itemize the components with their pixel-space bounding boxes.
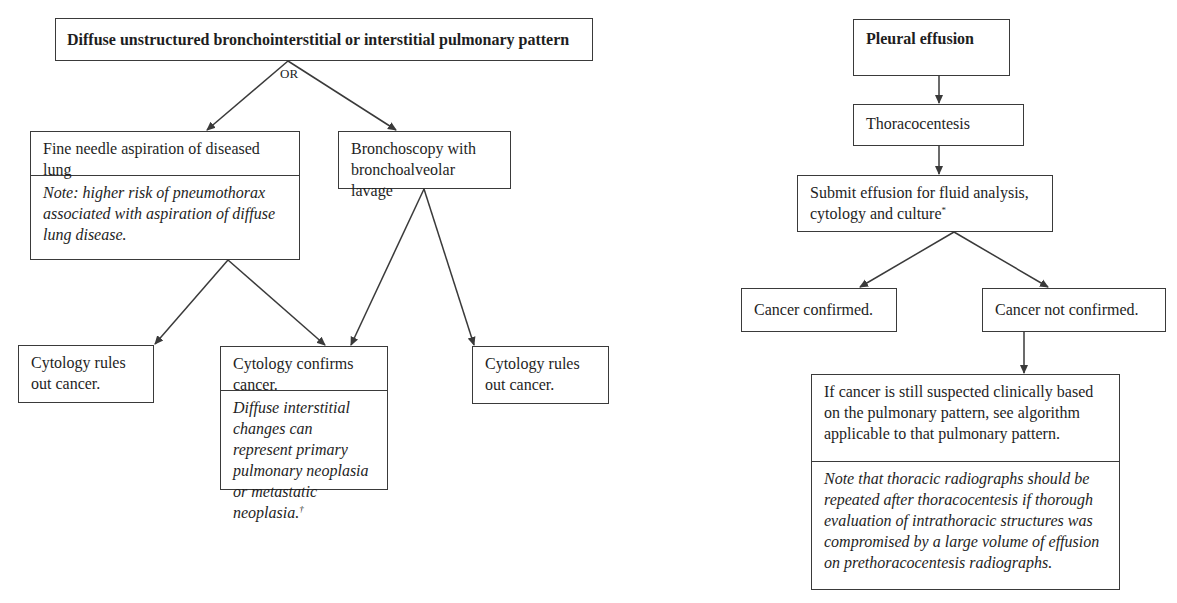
cytology-confirms-note-wrap: Diffuse interstitial changes can represe… (221, 390, 387, 529)
cytology-confirms-box: Cytology confirms cancer. Diffuse inters… (220, 346, 388, 490)
dagger-footnote-mark: † (299, 504, 304, 514)
submit-effusion-label: Submit effusion for fluid analysis, cyto… (810, 184, 1029, 222)
cytology-rules-out-left-box: Cytology rules out cancer. (18, 345, 154, 403)
cancer-not-confirmed-label: Cancer not confirmed. (983, 289, 1165, 326)
pleural-effusion-label: Pleural effusion (854, 20, 1009, 55)
root-box-diffuse-pattern: Diffuse unstructured bronchointerstitial… (55, 18, 593, 61)
pleural-effusion-box: Pleural effusion (853, 19, 1010, 76)
followup-note: Note that thoracic radiographs should be… (812, 461, 1119, 579)
thoracocentesis-box: Thoracocentesis (853, 104, 1024, 146)
cytology-confirms-title: Cytology confirms cancer. (221, 347, 387, 390)
fna-title: Fine needle aspiration of diseased lung (31, 132, 299, 175)
cytology-rules-out-right-box: Cytology rules out cancer. (472, 346, 609, 404)
cytology-rules-out-right-label: Cytology rules out cancer. (473, 347, 608, 401)
followup-box: If cancer is still suspected clinically … (811, 374, 1120, 590)
followup-title: If cancer is still suspected clinically … (812, 375, 1119, 461)
bronchoscopy-box: Bronchoscopy with bronchoalveolar lavage (338, 131, 511, 189)
submit-effusion-box: Submit effusion for fluid analysis, cyto… (797, 175, 1053, 232)
bronchoscopy-title: Bronchoscopy with bronchoalveolar lavage (339, 132, 510, 207)
or-branch-label: OR (280, 66, 298, 82)
fna-note: Note: higher risk of pneumothorax associ… (31, 175, 299, 251)
cancer-confirmed-box: Cancer confirmed. (741, 288, 897, 332)
asterisk-footnote-mark: * (942, 205, 947, 215)
fna-box: Fine needle aspiration of diseased lung … (30, 131, 300, 260)
submit-effusion-wrap: Submit effusion for fluid analysis, cyto… (798, 176, 1052, 230)
cancer-confirmed-label: Cancer confirmed. (742, 289, 896, 326)
cytology-rules-out-left-label: Cytology rules out cancer. (19, 346, 153, 400)
thoracocentesis-label: Thoracocentesis (854, 105, 1023, 140)
root-label: Diffuse unstructured bronchointerstitial… (56, 19, 592, 56)
cancer-not-confirmed-box: Cancer not confirmed. (982, 288, 1166, 332)
